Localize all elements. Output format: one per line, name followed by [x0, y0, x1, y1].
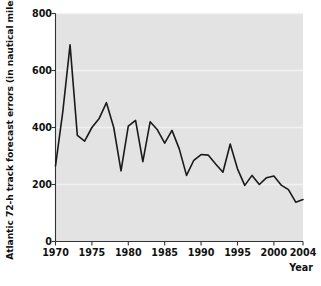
y-axis-ticks	[52, 14, 56, 242]
plot-area	[0, 0, 321, 286]
x-tick-label: 1990	[188, 247, 215, 258]
x-axis-title: Year	[289, 262, 313, 273]
x-tick-label: 1970	[42, 247, 69, 258]
x-axis-tick-labels: 19701975198019851990199520002004	[0, 247, 321, 261]
x-tick-label: 2000	[261, 247, 288, 258]
x-tick-label: 1985	[151, 247, 178, 258]
chart-figure: Atlantic 72-h track forecast errors (in …	[0, 0, 321, 286]
x-tick-label: 1975	[79, 247, 106, 258]
x-axis-ticks	[56, 242, 304, 246]
x-tick-label: 1995	[224, 247, 251, 258]
x-tick-label: 1980	[115, 247, 142, 258]
x-tick-label: 2004	[290, 247, 317, 258]
